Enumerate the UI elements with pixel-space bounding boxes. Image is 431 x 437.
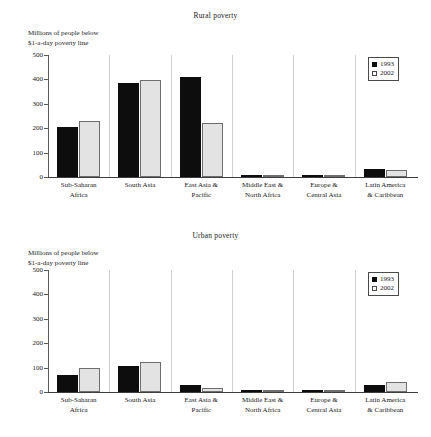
rural-category-group: South Asia [109,55,170,177]
urban-category-separator [109,270,110,392]
urban-category-label: East Asia & Pacific [171,396,232,415]
rural-bar-2002[interactable] [324,175,345,177]
urban-category-group: East Asia & Pacific [171,270,232,392]
urban-y-tick-label: 300 [33,315,44,323]
rural-category-separator [109,55,110,177]
legend-swatch-2002-icon [372,71,377,76]
rural-y-tick-label: 300 [33,100,44,108]
rural-category-group: Europe & Central Asia [293,55,354,177]
rural-bar-1993[interactable] [302,175,323,177]
urban-category-label: Middle East & North Africa [232,396,293,415]
urban-y-tick-label: 0 [40,388,44,396]
urban-category-label: Europe & Central Asia [293,396,354,415]
urban-chart-title: Urban poverty [0,231,431,240]
rural-category-label: South Asia [109,181,170,191]
urban-bar-2002[interactable] [79,368,100,392]
urban-category-separator [355,270,356,392]
urban-bar-2002[interactable] [386,382,407,392]
urban-y-tick-label: 400 [33,290,44,298]
rural-category-label: Sub-Saharan Africa [48,181,109,200]
rural-bar-1993[interactable] [118,83,139,177]
urban-bar-1993[interactable] [118,366,139,392]
rural-category-group: Middle East & North Africa [232,55,293,177]
legend-entry-2002: 2002 [372,284,394,293]
rural-category-label: Europe & Central Asia [293,181,354,200]
rural-y-tick-label: 200 [33,124,44,132]
legend-label-1993: 1993 [380,275,394,284]
rural-bar-1993[interactable] [241,175,262,177]
urban-category-label: South Asia [109,396,170,406]
rural-chart-title: Rural poverty [0,11,431,20]
rural-category-label: East Asia & Pacific [171,181,232,200]
urban-bar-1993[interactable] [241,390,262,392]
rural-bar-2002[interactable] [79,121,100,177]
rural-y-tick-mark [44,177,48,178]
rural-y-tick-label: 400 [33,75,44,83]
legend-swatch-1993-icon [372,277,377,282]
urban-category-group: South Asia [109,270,170,392]
rural-y-tick-label: 100 [33,149,44,157]
urban-y-tick-label: 200 [33,339,44,347]
legend-entry-1993: 1993 [372,60,394,69]
rural-category-group: Sub-Saharan Africa [48,55,109,177]
rural-category-group: East Asia & Pacific [171,55,232,177]
rural-bar-1993[interactable] [180,77,201,177]
legend-entry-1993: 1993 [372,275,394,284]
urban-y-tick-label: 100 [33,364,44,372]
rural-poverty-chart-panel: Rural poverty Millions of people below $… [0,0,431,218]
rural-y-tick-label: 0 [40,173,44,181]
rural-legend: 1993 2002 [368,57,399,81]
rural-category-separator [355,55,356,177]
legend-swatch-1993-icon [372,62,377,67]
rural-category-separator [171,55,172,177]
urban-category-separator [293,270,294,392]
rural-category-label: Middle East & North Africa [232,181,293,200]
urban-bar-2002[interactable] [263,390,284,392]
urban-category-group: Europe & Central Asia [293,270,354,392]
rural-bar-1993[interactable] [57,127,78,177]
urban-bar-2002[interactable] [202,388,223,392]
urban-category-separator [232,270,233,392]
urban-bar-1993[interactable] [302,390,323,392]
urban-bar-1993[interactable] [364,385,385,392]
urban-bar-1993[interactable] [57,375,78,392]
legend-label-2002: 2002 [380,69,394,78]
rural-plot-area: 0100200300400500 Sub-Saharan AfricaSouth… [48,55,416,177]
legend-swatch-2002-icon [372,286,377,291]
rural-bar-1993[interactable] [364,169,385,177]
urban-bar-1993[interactable] [180,385,201,392]
urban-bar-2002[interactable] [324,390,345,392]
urban-category-group: Middle East & North Africa [232,270,293,392]
urban-y-tick-label: 500 [33,266,44,274]
rural-x-axis-line [46,177,418,178]
rural-bar-2002[interactable] [386,170,407,177]
rural-y-tick-label: 500 [33,51,44,59]
urban-plot-area: 0100200300400500 Sub-Saharan AfricaSouth… [48,270,416,392]
urban-category-separator [171,270,172,392]
rural-y-axis-caption: Millions of people below $1-a-day povert… [28,29,99,48]
urban-category-label: Latin America & Caribbean [355,396,416,415]
rural-bar-2002[interactable] [202,123,223,177]
urban-legend: 1993 2002 [368,272,399,296]
rural-category-label: Latin America & Caribbean [355,181,416,200]
rural-category-separator [232,55,233,177]
urban-y-tick-mark [44,392,48,393]
rural-bar-2002[interactable] [263,175,284,177]
legend-entry-2002: 2002 [372,69,394,78]
legend-label-2002: 2002 [380,284,394,293]
legend-label-1993: 1993 [380,60,394,69]
urban-bar-2002[interactable] [140,362,161,393]
urban-category-group: Sub-Saharan Africa [48,270,109,392]
urban-x-axis-line [46,392,418,393]
rural-bar-2002[interactable] [140,80,161,177]
urban-category-label: Sub-Saharan Africa [48,396,109,415]
rural-category-separator [293,55,294,177]
